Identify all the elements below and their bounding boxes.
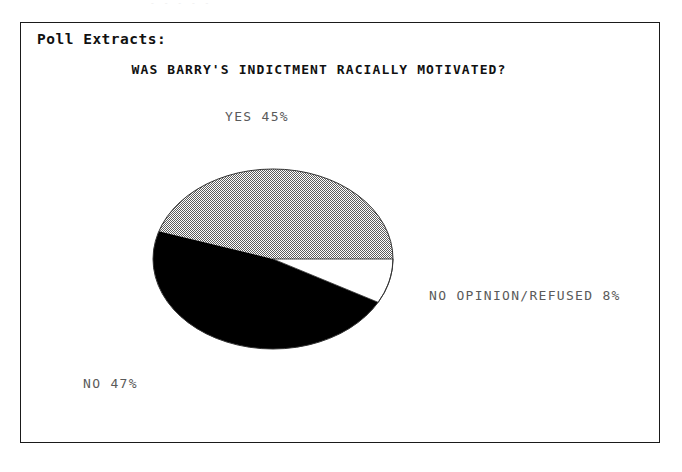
pie-slices (153, 169, 393, 349)
pie-label-no: NO 47% (83, 376, 138, 391)
pie-chart: YES 45% NO OPINION/REFUSED 8% NO 47% (21, 23, 661, 444)
poll-frame: Poll Extracts: WAS BARRY'S INDICTMENT RA… (20, 22, 660, 443)
pie-label-no-opinion: NO OPINION/REFUSED 8% (429, 288, 621, 303)
pie-label-yes: YES 45% (225, 109, 289, 124)
scan-artifact-text: - - - - - (150, 0, 320, 9)
poll-extract-page: - - - - - Poll Extracts: WAS BARRY'S IND… (0, 0, 682, 472)
